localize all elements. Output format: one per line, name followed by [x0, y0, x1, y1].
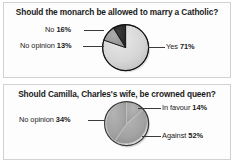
callout-no-value: 16%	[56, 25, 71, 34]
callout-yes: Yes 71%	[166, 42, 195, 51]
callout-no-opinion-name: No opinion	[20, 41, 55, 50]
poll-panel-monarch: Should the monarch be allowed to marry a…	[3, 2, 231, 78]
callout-no-opinion-2: No opinion 34%	[19, 115, 71, 124]
callout-in-favour: In favour 14%	[162, 103, 207, 112]
callout-in-favour-name: In favour	[162, 103, 190, 112]
poll-charts-figure: Should the monarch be allowed to marry a…	[0, 0, 236, 163]
pie-chart-camilla	[102, 99, 152, 149]
pie-chart-monarch	[100, 22, 152, 74]
leader-line-in-favour	[138, 108, 161, 109]
leader-line-no	[84, 30, 104, 31]
leader-line-against	[142, 136, 161, 137]
poll-panel-camilla: Should Camilla, Charles's wife, be crown…	[3, 84, 231, 160]
callout-against: Against 52%	[162, 131, 203, 140]
callout-no-name: No	[45, 25, 54, 34]
pie-monarch-svg	[100, 22, 152, 74]
callout-no-opinion-value: 13%	[57, 41, 72, 50]
callout-no-opinion-2-value: 34%	[56, 115, 71, 124]
leader-line-no-opinion	[83, 46, 104, 47]
callout-no-opinion-2-name: No opinion	[19, 115, 54, 124]
panel-title-monarch: Should the monarch be allowed to marry a…	[4, 7, 230, 17]
callout-in-favour-value: 14%	[192, 103, 207, 112]
callout-no-opinion: No opinion 13%	[20, 41, 72, 50]
callout-no: No 16%	[45, 25, 71, 34]
callout-yes-value: 71%	[180, 42, 195, 51]
callout-against-value: 52%	[188, 131, 203, 140]
panel-title-camilla: Should Camilla, Charles's wife, be crown…	[4, 89, 230, 99]
callout-yes-name: Yes	[166, 42, 178, 51]
callout-against-name: Against	[162, 131, 186, 140]
pie-camilla-svg	[102, 99, 152, 149]
leader-line-no-opinion-2	[88, 120, 105, 121]
leader-line-yes	[148, 47, 165, 48]
